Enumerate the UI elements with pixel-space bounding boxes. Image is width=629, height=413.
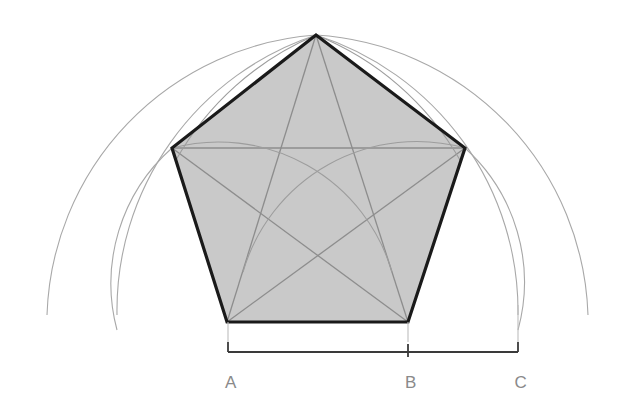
measure-bar — [228, 342, 518, 357]
diagram-canvas: A B C — [0, 0, 629, 413]
point-label-c: C — [515, 373, 528, 392]
pentagon-construction-figure: A B C — [0, 0, 629, 413]
point-label-b: B — [405, 373, 417, 392]
point-label-a: A — [225, 373, 237, 392]
